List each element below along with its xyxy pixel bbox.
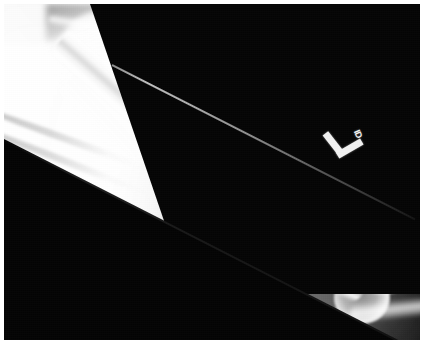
image-view-label: AP humerus [0,0,1,1]
marker-sub-text: ID [353,129,364,140]
radiograph-page: ID AP humerus Left upper arm L [0,0,426,353]
image-body-part-label: Left upper arm [0,0,1,1]
marker-side-letter: L [0,0,1,1]
radiograph-plate: ID [4,4,420,340]
